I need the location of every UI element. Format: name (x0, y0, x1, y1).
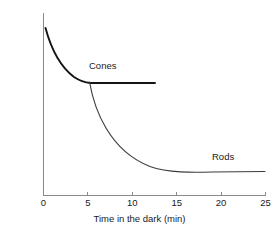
rods-curve (90, 82, 266, 172)
x-tick-label-10: 10 (120, 198, 144, 208)
series-label-cones: Cones (89, 60, 116, 71)
dark-adaptation-chart: 0 5 10 15 20 25 Time in the dark (min) L… (0, 0, 279, 235)
cones-curve (46, 28, 156, 83)
x-tick-label-25: 25 (254, 198, 278, 208)
x-tick-label-20: 20 (209, 198, 233, 208)
x-tick-label-0: 0 (32, 198, 56, 208)
x-tick-label-15: 15 (165, 198, 189, 208)
series-label-rods: Rods (212, 151, 234, 162)
x-axis-title: Time in the dark (min) (0, 213, 279, 224)
x-tick-label-5: 5 (76, 198, 100, 208)
